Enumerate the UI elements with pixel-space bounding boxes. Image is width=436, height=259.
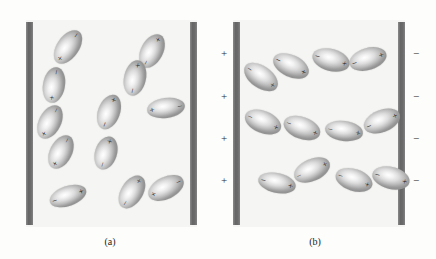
plate-charge-sign-negative: −	[411, 133, 421, 144]
plate-charge-sign-positive: +	[219, 133, 229, 144]
panel-b: ++++−−−−−+−+−+−+−+−+−+−+−+−+−+−+(b)	[0, 0, 436, 259]
dipole-charge-positive: +	[353, 128, 362, 138]
panel-caption: (b)	[295, 236, 335, 247]
plate-charge-sign-positive: +	[219, 175, 229, 186]
plate-charge-sign-positive: +	[219, 48, 229, 59]
plate-charge-sign-positive: +	[219, 91, 229, 102]
capacitor-left-plate	[233, 22, 240, 225]
dielectric-polarization-figure: +−−++−−++−+−−++−−+−++−−+(a)++++−−−−−+−+−…	[0, 0, 436, 259]
plate-charge-sign-negative: −	[411, 175, 421, 186]
capacitor-right-plate	[398, 22, 405, 225]
plate-charge-sign-negative: −	[411, 48, 421, 59]
dipole-charge-negative: −	[325, 125, 334, 135]
plate-charge-sign-negative: −	[411, 91, 421, 102]
